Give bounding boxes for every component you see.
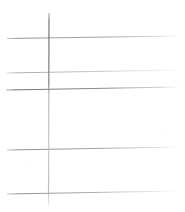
- line-drawing: [0, 0, 185, 212]
- scan-canvas: [0, 0, 185, 212]
- vertical-rule-1: [49, 13, 50, 206]
- page-background: [0, 0, 185, 212]
